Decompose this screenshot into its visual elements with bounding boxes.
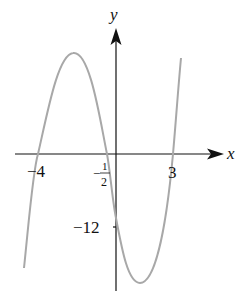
svg-text:1: 1: [102, 160, 108, 172]
x-tick-neg-half: − 1 2: [93, 160, 110, 189]
x-tick-neg4: −4: [27, 162, 46, 181]
cubic-function-graph: x y −4 − 1 2 3 −12: [0, 0, 237, 291]
x-axis-label: x: [226, 144, 235, 163]
y-axis-label: y: [108, 5, 118, 24]
x-tick-3: 3: [168, 163, 177, 182]
svg-text:2: 2: [101, 175, 107, 189]
svg-text:−: −: [93, 166, 100, 181]
y-tick-neg12: −12: [73, 218, 100, 237]
